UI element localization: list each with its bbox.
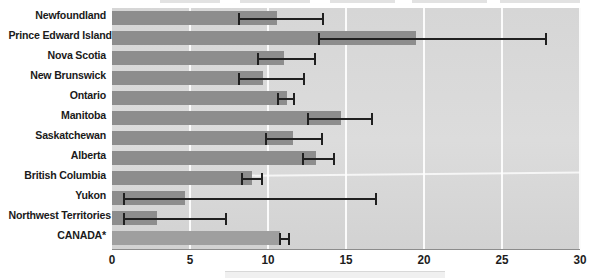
- bar-row: CANADA*: [0, 228, 597, 248]
- bar-row: Ontario: [0, 88, 597, 108]
- error-bar-cap-low: [279, 233, 281, 245]
- x-tick-label: 10: [261, 252, 274, 267]
- bar: [112, 91, 287, 105]
- error-bar-cap-low: [302, 153, 304, 165]
- x-tick-label: 0: [109, 252, 116, 267]
- error-bar-cap-high: [371, 113, 373, 125]
- error-bar-line: [257, 58, 316, 60]
- bar-row: New Brunswick: [0, 68, 597, 88]
- category-label: CANADA*: [8, 229, 106, 241]
- bar-row: British Columbia: [0, 168, 597, 188]
- error-bar-cap-high: [293, 93, 295, 105]
- error-bar-cap-high: [333, 153, 335, 165]
- category-label: Ontario: [8, 89, 106, 101]
- error-bar-cap-low: [123, 193, 125, 205]
- error-bar-cap-high: [314, 53, 316, 65]
- error-bar-line: [241, 178, 263, 180]
- error-bar-line: [265, 138, 323, 140]
- error-bar-cap-low: [238, 13, 240, 25]
- error-bar-line: [123, 218, 228, 220]
- bar: [112, 151, 316, 165]
- x-tick-label: 30: [573, 252, 586, 267]
- category-label: Northwest Territories: [8, 209, 106, 221]
- category-label: British Columbia: [8, 169, 106, 181]
- x-tick-label: 5: [187, 252, 194, 267]
- error-bar-line: [302, 158, 335, 160]
- cropped-title-fragment: [412, 0, 487, 3]
- category-label: Manitoba: [8, 109, 106, 121]
- bar-row: Saskatchewan: [0, 128, 597, 148]
- bar-row: Northwest Territories: [0, 208, 597, 228]
- error-bar-cap-low: [318, 33, 320, 45]
- bar-chart-figure: NewfoundlandPrince Edward IslandNova Sco…: [0, 0, 597, 278]
- error-bar-cap-low: [277, 93, 279, 105]
- error-bar-cap-high: [288, 233, 290, 245]
- error-bar-line: [318, 38, 547, 40]
- cropped-title-fragment: [240, 0, 310, 3]
- category-label: Prince Edward Island: [8, 29, 106, 41]
- error-bar-cap-low: [241, 173, 243, 185]
- error-bar-cap-low: [307, 113, 309, 125]
- error-bar-line: [123, 198, 377, 200]
- x-tick-label: 25: [495, 252, 508, 267]
- category-label: New Brunswick: [8, 69, 106, 81]
- top-crop-strip: [0, 0, 597, 8]
- category-label: Saskatchewan: [8, 129, 106, 141]
- error-bar-cap-high: [321, 133, 323, 145]
- bar-row: Nova Scotia: [0, 48, 597, 68]
- x-tick-label: 20: [417, 252, 430, 267]
- bar-row: Yukon: [0, 188, 597, 208]
- error-bar-cap-high: [375, 193, 377, 205]
- cropped-title-fragment: [160, 0, 220, 3]
- bar-row: Alberta: [0, 148, 597, 168]
- x-axis-line: [112, 249, 580, 250]
- category-label: Nova Scotia: [8, 49, 106, 61]
- bar-row: Prince Edward Island: [0, 28, 597, 48]
- error-bar-cap-high: [261, 173, 263, 185]
- cropped-title-fragment: [500, 0, 580, 3]
- bar-row: Newfoundland: [0, 8, 597, 28]
- error-bar-cap-low: [238, 73, 240, 85]
- error-bar-cap-high: [225, 213, 227, 225]
- error-bar-cap-low: [123, 213, 125, 225]
- bar: [112, 171, 252, 185]
- error-bar-cap-low: [257, 53, 259, 65]
- error-bar-line: [238, 78, 305, 80]
- bar-row: Manitoba: [0, 108, 597, 128]
- cropped-title-fragment: [330, 0, 395, 3]
- caption-box-edge: [225, 271, 445, 278]
- error-bar-cap-high: [322, 13, 324, 25]
- bar: [112, 231, 280, 245]
- x-tick-label: 15: [339, 252, 352, 267]
- error-bar-line: [238, 18, 324, 20]
- category-label: Newfoundland: [8, 9, 106, 21]
- bar-rows: NewfoundlandPrince Edward IslandNova Sco…: [0, 8, 597, 248]
- error-bar-cap-high: [545, 33, 547, 45]
- category-label: Alberta: [8, 149, 106, 161]
- category-label: Yukon: [8, 189, 106, 201]
- error-bar-cap-high: [303, 73, 305, 85]
- error-bar-line: [307, 118, 373, 120]
- error-bar-cap-low: [265, 133, 267, 145]
